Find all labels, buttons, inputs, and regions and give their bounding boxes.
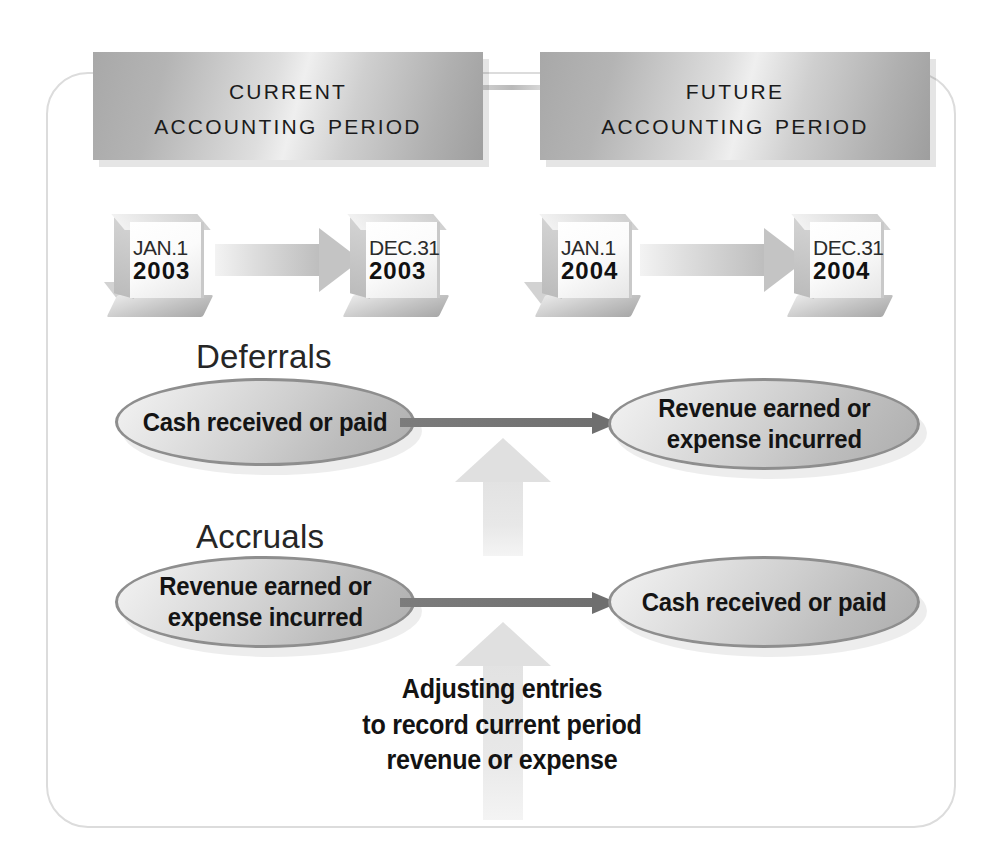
- timeline-arrow-current-period-icon: [215, 228, 365, 292]
- adjusting-entries-arrow-upper-icon: [455, 438, 551, 558]
- diagram-canvas: Current Accounting Period Future Account…: [0, 0, 1005, 867]
- arrow-head: [455, 438, 551, 482]
- calendar-base: [535, 295, 642, 317]
- calendar-month-day: JAN.1: [561, 237, 616, 258]
- banner-future-line1: Future: [686, 71, 784, 106]
- calendar-month-day: JAN.1: [133, 237, 188, 258]
- calendar-jan-2003: JAN.1 2003: [112, 212, 208, 317]
- arrow-shaft: [640, 244, 768, 276]
- calendar-base: [107, 295, 214, 317]
- ellipse-text-line: Cash received or paid: [642, 587, 887, 618]
- banner-current-accounting-period: Current Accounting Period: [93, 52, 483, 160]
- banner-current-line2: Accounting Period: [154, 106, 421, 141]
- timeline-arrow-future-period-icon: [640, 228, 812, 292]
- ellipse-accruals-current-text: Revenue earned or expense incurred: [159, 571, 371, 632]
- arrow-shaft: [400, 598, 596, 607]
- ellipse-accruals-future-text: Cash received or paid: [642, 587, 887, 618]
- ellipse-text-line: Revenue earned or: [658, 393, 870, 424]
- adjusting-entries-caption: Adjusting entries to record current peri…: [252, 672, 752, 779]
- banner-connector: [483, 85, 541, 90]
- calendar-dec-2004: DEC.31 2004: [792, 212, 888, 317]
- section-label-deferrals: Deferrals: [196, 338, 332, 376]
- arrow-shaft: [400, 418, 596, 427]
- calendar-month-day: DEC.31: [813, 237, 884, 258]
- accruals-flow-arrow-icon: [400, 592, 618, 612]
- arrow-shaft: [215, 244, 323, 276]
- ellipse-text-line: expense incurred: [658, 424, 870, 455]
- arrow-shaft: [483, 478, 523, 556]
- calendar-month-day: DEC.31: [369, 237, 440, 258]
- arrow-head: [455, 622, 551, 666]
- caption-line-2: to record current period: [270, 708, 735, 744]
- deferrals-flow-arrow-icon: [400, 412, 618, 432]
- caption-line-3: revenue or expense: [270, 743, 735, 779]
- calendar-year: 2004: [813, 258, 870, 283]
- ellipse-accruals-current: Revenue earned or expense incurred: [115, 556, 415, 648]
- ellipse-deferrals-future-text: Revenue earned or expense incurred: [658, 393, 870, 454]
- calendar-face: DEC.31 2004: [810, 222, 884, 298]
- ellipse-text-line: Revenue earned or: [159, 571, 371, 602]
- banner-current-line1: Current: [229, 71, 347, 106]
- calendar-year: 2004: [561, 258, 618, 283]
- ellipse-deferrals-current-text: Cash received or paid: [143, 407, 388, 438]
- calendar-year: 2003: [133, 258, 190, 283]
- calendar-face: DEC.31 2003: [366, 222, 440, 298]
- calendar-year: 2003: [369, 258, 426, 283]
- calendar-face: JAN.1 2003: [130, 222, 204, 298]
- calendar-base: [787, 295, 894, 317]
- calendar-base: [343, 295, 450, 317]
- calendar-jan-2004: JAN.1 2004: [540, 212, 636, 317]
- ellipse-text-line: Cash received or paid: [143, 407, 388, 438]
- section-label-accruals: Accruals: [196, 518, 324, 556]
- calendar-face: JAN.1 2004: [558, 222, 632, 298]
- banner-future-accounting-period: Future Accounting Period: [540, 52, 930, 160]
- ellipse-deferrals-current: Cash received or paid: [115, 378, 415, 466]
- banner-future-line2: Accounting Period: [601, 106, 868, 141]
- caption-line-1: Adjusting entries: [270, 672, 735, 708]
- ellipse-accruals-future: Cash received or paid: [608, 556, 920, 648]
- ellipse-deferrals-future: Revenue earned or expense incurred: [608, 378, 920, 470]
- ellipse-text-line: expense incurred: [159, 602, 371, 633]
- calendar-dec-2003: DEC.31 2003: [348, 212, 444, 317]
